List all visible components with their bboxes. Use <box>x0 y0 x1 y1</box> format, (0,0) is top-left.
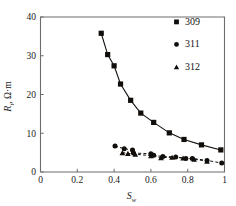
data-point-309 <box>128 98 133 103</box>
data-point-309 <box>199 142 204 147</box>
legend-marker-circle <box>174 42 179 47</box>
y-tick-label: 10 <box>27 129 37 139</box>
x-tick-label: 0 <box>38 175 43 185</box>
data-point-309 <box>181 137 186 142</box>
series-309 <box>99 31 224 153</box>
series-line-309 <box>101 33 221 150</box>
legend-entry-311: 311 <box>174 38 200 49</box>
legend-label-312: 312 <box>185 61 200 72</box>
data-point-309 <box>218 147 223 152</box>
y-tick-label: 30 <box>27 51 37 61</box>
legend-label-311: 311 <box>185 38 200 49</box>
y-axis-title: Rt, Ω·m <box>2 81 15 113</box>
x-tick-label: 1 <box>222 175 227 185</box>
data-point-311 <box>219 161 224 166</box>
x-tick-label: 0.6 <box>145 175 157 185</box>
y-tick-label: 40 <box>27 12 37 22</box>
chart-canvas: 01020304000.20.40.60.81 309311312 SwRt, … <box>0 0 236 206</box>
data-series <box>99 31 225 166</box>
data-point-309 <box>118 81 123 86</box>
data-point-309 <box>151 120 156 125</box>
chart-legend: 309311312 <box>174 16 200 72</box>
data-point-309 <box>112 63 117 68</box>
x-tick-label: 0.2 <box>71 175 83 185</box>
chart-figure: 01020304000.20.40.60.81 309311312 SwRt, … <box>0 0 236 206</box>
y-tick-label: 20 <box>27 90 37 100</box>
legend-label-309: 309 <box>185 16 200 27</box>
legend-marker-square <box>174 20 179 25</box>
legend-entry-312: 312 <box>174 61 200 72</box>
data-point-309 <box>138 111 143 116</box>
data-point-309 <box>105 52 110 57</box>
data-point-311 <box>113 144 118 149</box>
legend-marker-triangle <box>174 65 179 70</box>
data-point-309 <box>167 130 172 135</box>
x-axis-title: Sw <box>127 190 137 203</box>
x-tick-label: 0.8 <box>182 175 194 185</box>
x-tick-label: 0.4 <box>108 175 120 185</box>
y-tick-label: 0 <box>31 167 36 177</box>
data-point-309 <box>99 31 104 36</box>
